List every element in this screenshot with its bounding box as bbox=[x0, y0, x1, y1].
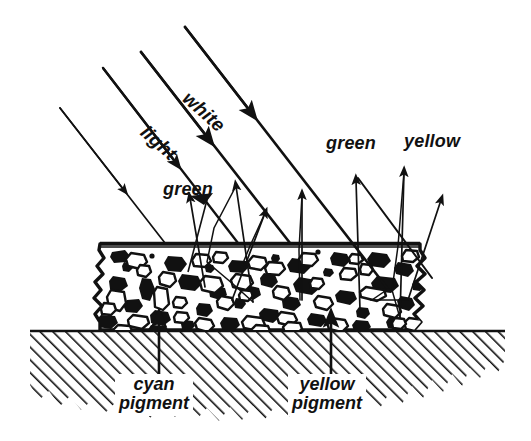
figure-canvas: white light green green yellow cyan pigm… bbox=[0, 0, 531, 441]
callout-cyan-line2: pigment bbox=[119, 394, 189, 413]
ray-label-green-right: green bbox=[326, 134, 376, 153]
callout-yellow-line1: yellow bbox=[292, 375, 362, 394]
callout-cyan-pigment: cyan pigment bbox=[115, 374, 193, 416]
substrate-hatched bbox=[30, 331, 505, 421]
ray-label-yellow-right: yellow bbox=[404, 132, 460, 151]
callout-yellow-pigment: yellow pigment bbox=[288, 374, 366, 416]
callout-cyan-line1: cyan bbox=[119, 375, 189, 394]
callout-yellow-line2: pigment bbox=[292, 394, 362, 413]
ray-label-green-left: green bbox=[163, 180, 213, 199]
diagram-artwork bbox=[0, 0, 531, 441]
